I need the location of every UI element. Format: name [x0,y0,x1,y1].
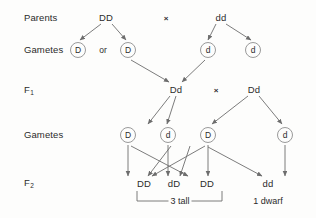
phenotype-ratio-dwarf: 1 dwarf [251,196,285,206]
f2-genotype-4: dd [263,178,274,189]
f2-genotype-1: DD [137,178,151,189]
f1-genotype-left: Dd [170,84,183,95]
gametes-label-2-text: Gametes [24,129,63,140]
gamete-f1-2-label: d [161,128,175,142]
phenotype-ratio-tall: 3 tall [168,196,191,206]
gamete-p-1: D [70,42,86,58]
f2-genotype-2: dD [168,178,181,189]
gamete-p-2: D [120,42,136,58]
gamete-f1-4-label: d [278,128,292,142]
gamete-f1-3: D [200,127,216,143]
parent-genotype-right: dd [216,12,227,23]
parents-cross-symbol: × [164,14,169,23]
row-label-f1: F1 [24,84,34,95]
row-label-f2: F2 [24,177,34,188]
gamete-p-2-label: D [121,43,135,57]
f1-label-subscript: 1 [30,89,34,96]
gamete-f1-2: d [160,127,176,143]
gamete-p-3-label: d [201,43,215,57]
f2-genotype-3: DD [200,178,214,189]
gametes-or-text: or [99,45,107,55]
punnett-cross-diagram: Parents Gametes F1 Gametes F2 DD × dd D … [0,0,316,218]
gamete-f1-1-label: D [121,128,135,142]
gamete-p-1-label: D [71,43,85,57]
f1-cross-symbol: × [214,86,219,95]
gametes-label-1-text: Gametes [24,44,63,55]
row-label-parents: Parents [24,12,57,23]
gamete-f1-3-label: D [201,128,215,142]
row-label-gametes-1: Gametes [24,44,63,55]
gamete-p-3: d [200,42,216,58]
gamete-p-4: d [245,42,261,58]
gamete-f1-1: D [120,127,136,143]
gamete-f1-4: d [277,127,293,143]
parent-genotype-left: DD [99,12,113,23]
row-label-gametes-2: Gametes [24,129,63,140]
f2-label-subscript: 2 [30,182,34,189]
parents-label-text: Parents [24,12,57,23]
gamete-p-4-label: d [246,43,260,57]
f1-genotype-right: Dd [248,84,261,95]
